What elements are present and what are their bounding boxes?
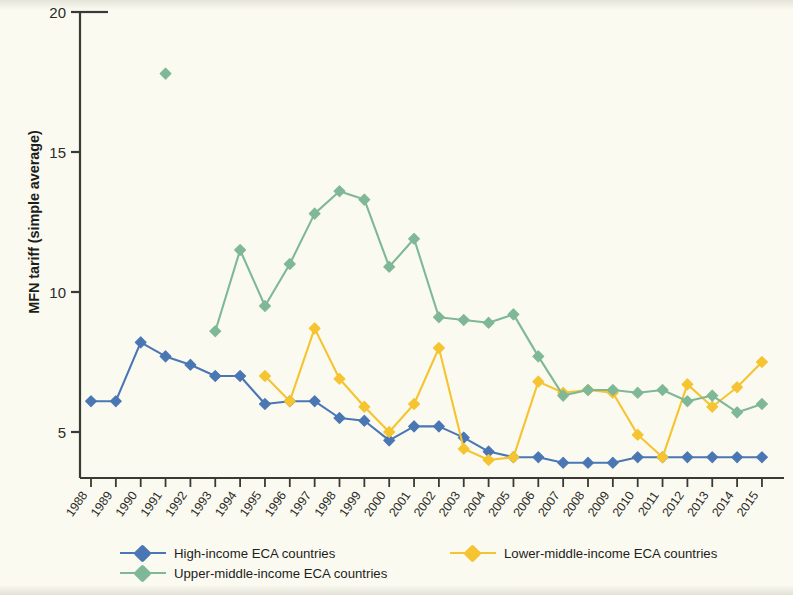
data-point-marker xyxy=(434,312,445,323)
data-point-marker xyxy=(210,371,221,382)
data-point-marker xyxy=(110,396,121,407)
data-point-marker xyxy=(508,309,519,320)
data-point-marker xyxy=(757,452,768,463)
x-tick-label: 1991 xyxy=(138,489,165,520)
legend-label-upper-middle-income: Upper-middle-income ECA countries xyxy=(174,566,387,581)
legend-row-1: High-income ECA countries Lower-middle-i… xyxy=(120,545,780,561)
x-tick-label: 1996 xyxy=(262,489,289,520)
x-tick-label: 1995 xyxy=(237,489,264,520)
x-tick-label: 1994 xyxy=(212,489,239,520)
legend-item-upper-middle-income[interactable]: Upper-middle-income ECA countries xyxy=(120,565,450,581)
legend-marker-upper-middle-income xyxy=(120,565,166,581)
data-point-marker xyxy=(707,452,718,463)
data-point-marker xyxy=(483,317,494,328)
data-point-marker xyxy=(632,452,643,463)
page-edge-shade-bottom xyxy=(0,585,793,595)
series-2 xyxy=(260,323,768,465)
data-point-marker xyxy=(558,457,569,468)
data-point-marker xyxy=(434,343,445,354)
data-point-marker xyxy=(533,351,544,362)
data-point-marker xyxy=(682,452,693,463)
y-tick-label: 10 xyxy=(49,284,66,301)
x-tick-label: 1990 xyxy=(113,489,140,520)
data-point-marker xyxy=(632,387,643,398)
x-tick-label: 2009 xyxy=(585,489,612,520)
data-point-marker xyxy=(434,421,445,432)
x-tick-label: 2008 xyxy=(560,489,587,520)
data-point-marker xyxy=(657,385,668,396)
data-point-marker xyxy=(86,396,97,407)
x-tick-label: 1999 xyxy=(337,489,364,520)
data-point-marker xyxy=(409,421,420,432)
data-point-marker xyxy=(284,259,295,270)
data-point-marker xyxy=(483,455,494,466)
x-tick-label: 2011 xyxy=(635,489,662,519)
x-tick-label: 1992 xyxy=(163,489,190,520)
legend-label-lower-middle-income: Lower-middle-income ECA countries xyxy=(504,546,717,561)
data-point-marker xyxy=(160,351,171,362)
data-point-marker xyxy=(533,376,544,387)
x-tick-label: 2005 xyxy=(486,489,513,520)
data-point-marker xyxy=(458,315,469,326)
data-point-marker xyxy=(732,452,743,463)
x-tick-label: 2003 xyxy=(436,489,463,520)
data-point-marker xyxy=(508,452,519,463)
data-point-marker xyxy=(309,323,320,334)
data-point-marker xyxy=(260,301,271,312)
data-point-marker xyxy=(607,457,618,468)
y-tick-label: 15 xyxy=(49,144,66,161)
chart-legend: High-income ECA countries Lower-middle-i… xyxy=(120,545,780,585)
legend-marker-lower-middle-income xyxy=(450,545,496,561)
x-tick-label: 1988 xyxy=(63,489,90,520)
chart-figure: MFN tariff (simple average) 510152019881… xyxy=(0,0,793,595)
data-point-marker xyxy=(583,385,594,396)
data-point-marker xyxy=(135,337,146,348)
x-tick-label: 1998 xyxy=(312,489,339,520)
x-tick-label: 2006 xyxy=(510,489,537,520)
legend-row-2: Upper-middle-income ECA countries xyxy=(120,565,780,581)
x-tick-label: 2000 xyxy=(361,489,388,520)
x-tick-label: 2010 xyxy=(610,489,637,520)
data-point-marker xyxy=(185,359,196,370)
x-tick-label: 2004 xyxy=(461,489,488,520)
legend-item-high-income[interactable]: High-income ECA countries xyxy=(120,545,450,561)
data-point-marker xyxy=(458,443,469,454)
x-tick-label: 2001 xyxy=(386,489,413,520)
x-tick-label: 2015 xyxy=(734,489,761,520)
x-tick-label: 1997 xyxy=(287,489,314,520)
legend-item-lower-middle-income[interactable]: Lower-middle-income ECA countries xyxy=(450,545,717,561)
data-point-marker xyxy=(583,457,594,468)
legend-marker-high-income xyxy=(120,545,166,561)
data-point-marker xyxy=(235,245,246,256)
x-tick-label: 1993 xyxy=(187,489,214,520)
data-point-marker xyxy=(359,194,370,205)
data-point-marker xyxy=(210,326,221,337)
data-point-marker xyxy=(160,68,171,79)
data-point-marker xyxy=(757,399,768,410)
series-line xyxy=(265,328,762,460)
legend-label-high-income: High-income ECA countries xyxy=(174,546,335,561)
series-3 xyxy=(160,68,767,418)
x-tick-label: 2002 xyxy=(411,489,438,520)
x-tick-label: 2013 xyxy=(684,489,711,520)
y-tick-label: 20 xyxy=(49,4,66,21)
x-tick-label: 2012 xyxy=(660,489,687,520)
x-tick-label: 1989 xyxy=(88,489,115,520)
plot-area: 5101520198819891990199119921993199419951… xyxy=(0,0,793,545)
data-point-marker xyxy=(533,452,544,463)
y-tick-label: 5 xyxy=(58,424,66,441)
x-tick-label: 2007 xyxy=(535,489,562,520)
x-tick-label: 2014 xyxy=(709,489,736,520)
